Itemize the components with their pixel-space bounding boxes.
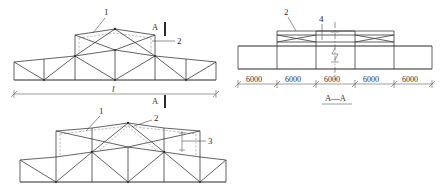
top-truss-verticals [14,50,216,80]
section-marker-a-lower-label: A [152,96,159,106]
bottom-truss-elevation: 1 2 3 [20,106,226,183]
callout-1-bottom-label: 1 [99,106,104,116]
callout-2-top-label: 2 [177,36,182,46]
top-truss-span-dimension: l [11,84,219,98]
section-marker-a-upper-label: A [152,22,159,32]
dimension-bay-5: 6000 [402,75,418,84]
section-marker-a-lower: A [152,95,165,108]
callout-2-bottom-label: 2 [154,113,159,123]
dimension-bay-3: 6000 [324,75,340,84]
section-x-brace-left [277,35,316,42]
callout-1-top-label: 1 [104,7,109,17]
callout-2-section-label: 2 [284,7,289,17]
section-dimension-chain: 6000 6000 6000 6000 6000 [235,75,435,88]
callout-4-section: 4 [319,14,324,40]
section-x-brace-right [355,35,394,42]
dimension-bay-2: 6000 [285,75,301,84]
engineering-drawing-canvas: 1 2 A A l [0,0,443,191]
callout-3-bottom-label: 3 [208,136,213,146]
bottom-truss-verticals [20,147,226,182]
dimension-bay-1: 6000 [246,75,262,84]
callout-1-top: 1 [93,7,109,33]
top-truss-elevation: 1 2 A A l [11,7,219,108]
callout-2-top: 2 [152,36,182,46]
section-a-a: 2 4 6000 6000 6000 6000 6000 [235,7,435,104]
span-label: l [112,84,115,94]
dimension-bay-4: 6000 [363,75,379,84]
bottom-truss-intermediate-chord [20,147,226,160]
section-marker-a-upper: A [152,22,165,36]
callout-2-section: 2 [284,7,296,31]
section-caption: A—A [322,93,352,104]
callout-4-section-label: 4 [319,14,324,24]
section-caption-label: A—A [325,93,347,103]
